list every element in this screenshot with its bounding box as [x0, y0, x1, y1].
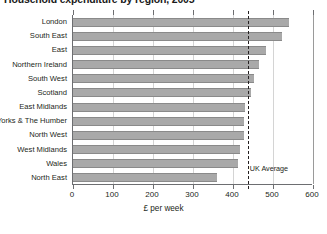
category-label: London	[42, 15, 67, 29]
bar	[73, 103, 245, 112]
bar-row	[73, 43, 312, 57]
x-axis-title: £ per week	[0, 204, 327, 213]
category-label: Northern Ireland	[12, 58, 67, 72]
bar-row	[73, 114, 312, 128]
category-label: Scotland	[37, 86, 67, 100]
bar	[73, 46, 266, 55]
x-tick-mark-top	[313, 10, 314, 15]
bar-row	[73, 72, 312, 86]
chart-container: Household expenditure by region, 2005 UK…	[0, 0, 327, 234]
uk-average-line	[248, 11, 249, 189]
bar	[73, 74, 254, 83]
x-tick-mark	[153, 185, 154, 189]
category-label: South East	[30, 29, 67, 43]
bar-row	[73, 128, 312, 142]
x-tick-mark	[193, 185, 194, 189]
bar	[73, 88, 251, 97]
category-label: North East	[31, 171, 67, 185]
x-tick-label: 600	[305, 190, 318, 199]
bar	[73, 32, 282, 41]
plot-area	[72, 15, 312, 185]
bar	[73, 117, 244, 126]
x-tick-mark	[113, 185, 114, 189]
bar	[73, 18, 289, 27]
bar	[73, 131, 244, 140]
x-tick-label: 400	[225, 190, 238, 199]
x-tick-label: 200	[145, 190, 158, 199]
category-label: Yorks & The Humber	[0, 114, 67, 128]
gridline	[313, 15, 314, 184]
bar	[73, 173, 217, 182]
category-label: South West	[28, 72, 67, 86]
bar-row	[73, 143, 312, 157]
bar-row	[73, 58, 312, 72]
category-label: East Midlands	[19, 100, 67, 114]
x-tick-mark	[73, 185, 74, 189]
x-tick-mark	[233, 185, 234, 189]
category-label: North West	[29, 128, 67, 142]
bar-row	[73, 86, 312, 100]
x-tick-mark	[313, 185, 314, 189]
category-label: Wales	[46, 157, 67, 171]
category-label: East	[52, 43, 67, 57]
x-tick-mark	[273, 185, 274, 189]
bar-row	[73, 29, 312, 43]
chart-title: Household expenditure by region, 2005	[4, 0, 195, 5]
x-tick-label: 500	[265, 190, 278, 199]
bar-row	[73, 100, 312, 114]
bar-row	[73, 15, 312, 29]
bar	[73, 145, 240, 154]
x-tick-label: 100	[105, 190, 118, 199]
x-tick-label: 0	[70, 190, 74, 199]
bar	[73, 159, 238, 168]
bar	[73, 60, 259, 69]
x-tick-label: 300	[185, 190, 198, 199]
category-label: West Midlands	[17, 143, 67, 157]
uk-average-label: UK Average	[250, 164, 288, 173]
